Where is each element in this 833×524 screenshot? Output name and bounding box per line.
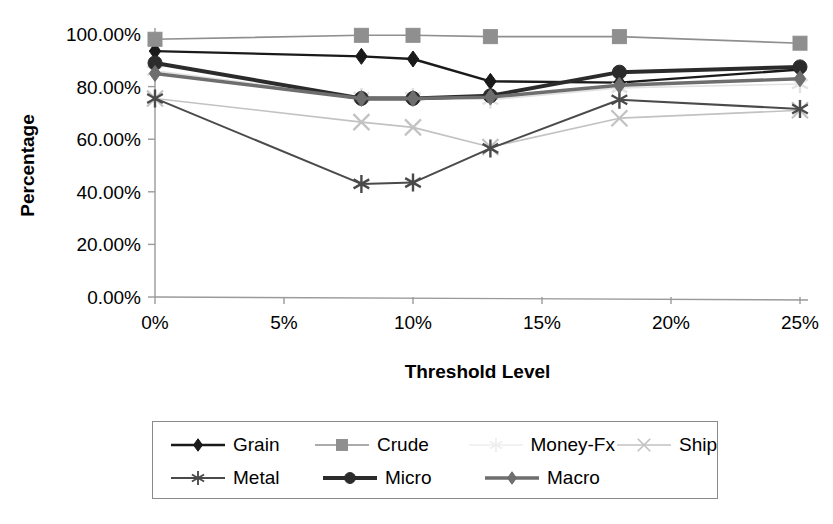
x-axis-tick-label: 10%	[394, 312, 432, 333]
legend-key-star-icon	[169, 468, 227, 488]
data-point-marker	[354, 28, 368, 42]
legend-label: Metal	[233, 468, 279, 487]
y-axis-title: Percentage	[17, 114, 38, 216]
legend-key-cross-icon	[615, 435, 673, 455]
x-axis-tick-label: 20%	[652, 312, 690, 333]
legend-item-grain[interactable]: Grain	[169, 435, 313, 455]
legend-label: Crude	[377, 435, 429, 454]
legend-label: Money-Fx	[531, 435, 615, 454]
legend-item-ship[interactable]: Ship	[615, 435, 717, 455]
y-axis-tick-label: 40.00%	[77, 182, 142, 203]
y-axis-tick-label: 100.00%	[66, 24, 141, 45]
legend-item-macro[interactable]: Macro	[483, 468, 600, 488]
legend-key-star-icon	[467, 435, 525, 455]
x-axis-tick-label: 0%	[141, 312, 169, 333]
series-group	[147, 28, 808, 193]
series-line	[155, 98, 800, 183]
legend-label: Macro	[547, 468, 600, 487]
series-crude	[148, 28, 807, 50]
data-point-marker	[483, 30, 497, 44]
legend-key-diamond-icon	[483, 468, 541, 488]
data-point-marker	[407, 51, 419, 67]
y-axis-tick-label: 0.00%	[87, 287, 141, 308]
legend-label: Ship	[679, 435, 717, 454]
data-point-marker	[508, 471, 517, 483]
line-chart-svg: 0.00%20.00%40.00%60.00%80.00%100.00%0%5%…	[0, 0, 833, 400]
series-line	[155, 35, 800, 43]
x-axis-title: Threshold Level	[405, 361, 551, 382]
y-axis-tick-label: 80.00%	[77, 77, 142, 98]
legend-label: Micro	[385, 468, 431, 487]
legend-key-diamond-icon	[169, 435, 227, 455]
series-ship	[147, 90, 808, 155]
legend-item-money-fx[interactable]: Money-Fx	[467, 435, 615, 455]
x-axis-tick-label: 25%	[781, 312, 819, 333]
legend-item-crude[interactable]: Crude	[313, 435, 466, 455]
data-point-marker	[194, 438, 203, 450]
data-point-marker	[793, 36, 807, 50]
data-point-marker	[406, 28, 420, 42]
chart-legend: GrainCrudeMoney-FxShip MetalMicroMacro	[152, 421, 718, 499]
data-point-marker	[485, 73, 497, 89]
legend-item-metal[interactable]: Metal	[169, 468, 321, 488]
data-point-marker	[612, 30, 626, 44]
x-axis-line	[155, 297, 808, 300]
x-axis-tick-label: 5%	[270, 312, 298, 333]
legend-row: MetalMicroMacro	[153, 461, 717, 494]
data-point-marker	[148, 32, 162, 46]
legend-item-micro[interactable]: Micro	[321, 468, 483, 488]
legend-row: GrainCrudeMoney-FxShip	[153, 428, 717, 461]
chart-container: 0.00%20.00%40.00%60.00%80.00%100.00%0%5%…	[0, 0, 833, 524]
plot-area: 0.00%20.00%40.00%60.00%80.00%100.00%0%5%…	[0, 0, 833, 400]
data-point-marker	[337, 439, 348, 450]
x-axis-tick-label: 15%	[523, 312, 561, 333]
legend-key-square-icon	[313, 435, 371, 455]
series-metal	[147, 89, 808, 192]
legend-key-circle-icon	[321, 468, 379, 488]
y-axis-tick-label: 20.00%	[77, 234, 142, 255]
series-line	[155, 98, 800, 147]
y-axis-tick-label: 60.00%	[77, 129, 142, 150]
data-point-marker	[345, 472, 356, 483]
data-point-marker	[356, 48, 368, 64]
legend-label: Grain	[233, 435, 279, 454]
